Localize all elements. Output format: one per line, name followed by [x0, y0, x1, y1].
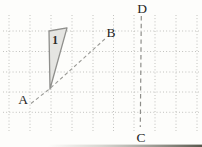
point-label-b: B: [106, 25, 115, 40]
diagram-page: 1ABDC: [0, 0, 202, 147]
triangle-label: 1: [52, 34, 58, 46]
point-label-a: A: [18, 92, 28, 107]
scan-edge-artifact: [48, 145, 202, 147]
point-label-c: C: [136, 130, 145, 145]
geometry-figure: 1ABDC: [0, 0, 202, 147]
point-label-d: D: [137, 1, 147, 16]
